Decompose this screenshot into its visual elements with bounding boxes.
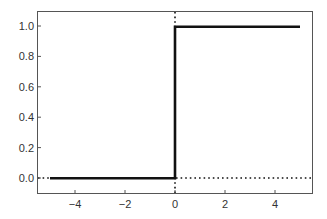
y-tick-label: 0.8 — [19, 50, 34, 62]
y-tick-label: 0.6 — [19, 81, 34, 93]
y-tick-label: 0.0 — [19, 172, 34, 184]
step-series-line — [50, 27, 300, 179]
x-tick-label: −2 — [119, 198, 132, 210]
step-function-chart: 0.0 0.2 0.4 0.6 0.8 1.0 −4 −2 0 2 4 — [0, 0, 327, 219]
y-tick-label: 0.2 — [19, 142, 34, 154]
x-tick-label: 2 — [222, 198, 228, 210]
x-tick-label: 4 — [272, 198, 278, 210]
x-tick-label: −4 — [69, 198, 82, 210]
y-tick-label: 0.4 — [19, 111, 34, 123]
x-tick-label: 0 — [172, 198, 178, 210]
y-tick-label: 1.0 — [19, 20, 34, 32]
